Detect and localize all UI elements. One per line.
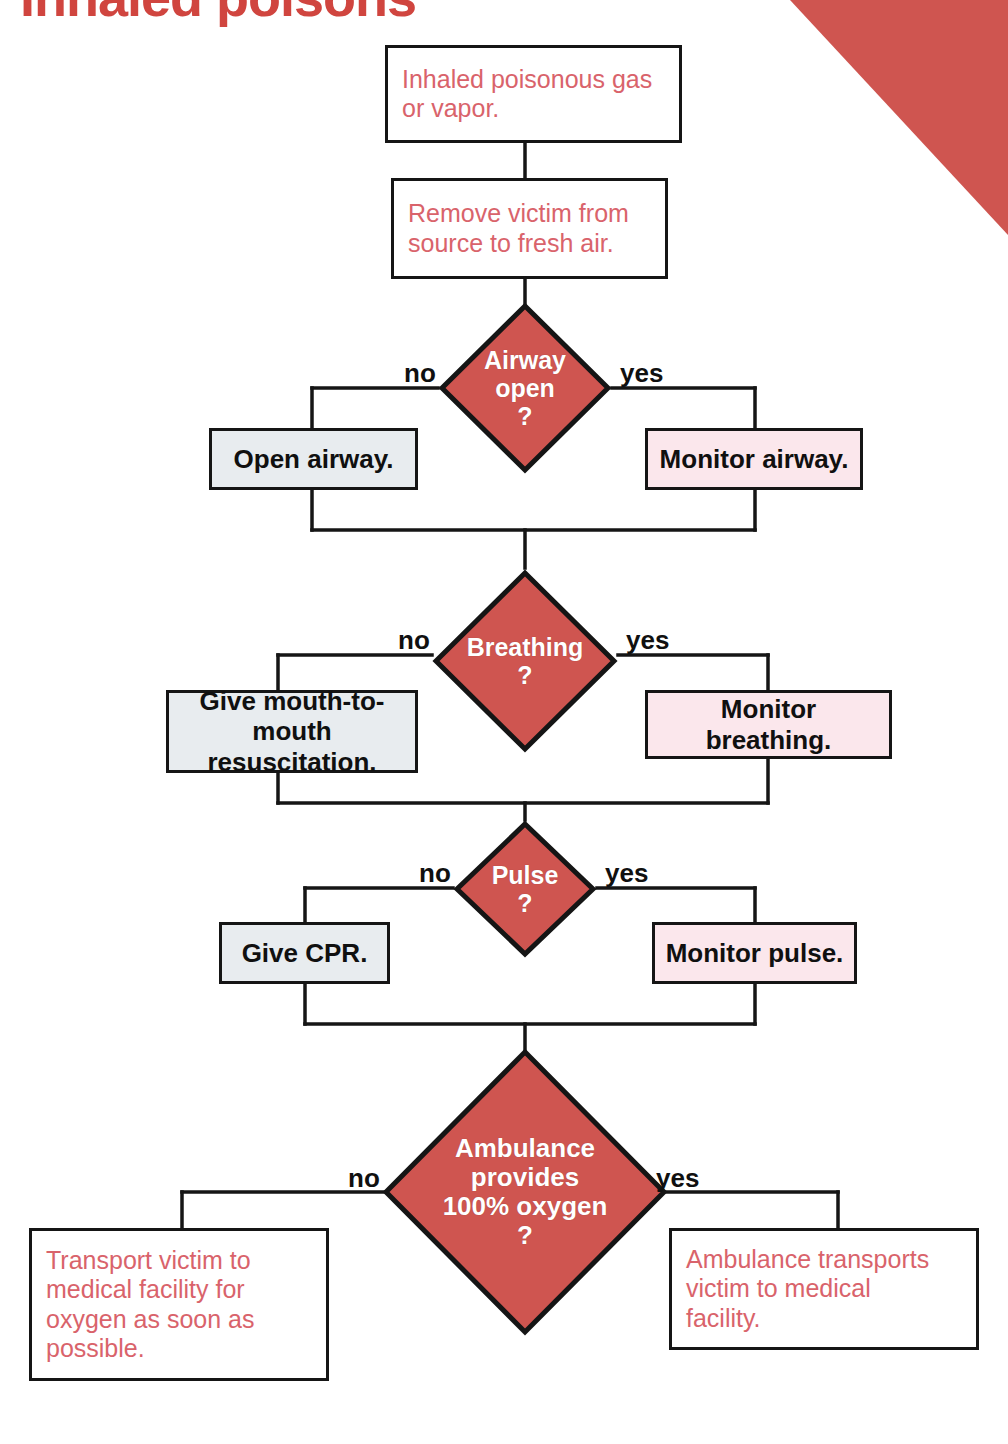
node-remove-victim-label: Remove victim from source to fresh air. — [408, 199, 651, 258]
node-open-airway-label: Open airway. — [222, 444, 405, 475]
edge-label-airway-no: no — [404, 358, 436, 389]
node-transport-victim: Transport victim to medical facility for… — [29, 1228, 329, 1381]
node-transport-victim-label: Transport victim to medical facility for… — [46, 1246, 312, 1364]
node-ambulance-transports: Ambulance transports victim to medical f… — [669, 1228, 979, 1350]
node-monitor-airway: Monitor airway. — [645, 428, 863, 490]
node-monitor-pulse-label: Monitor pulse. — [665, 938, 844, 969]
node-monitor-breathing-label: Monitor breathing. — [658, 694, 879, 755]
node-open-airway: Open airway. — [209, 428, 418, 490]
node-give-cpr: Give CPR. — [219, 922, 390, 984]
node-give-cpr-label: Give CPR. — [232, 938, 377, 969]
node-airway-open-decision: Airway open ? — [438, 302, 612, 474]
node-ambulance-oxygen-decision: Ambulance provides 100% oxygen ? — [382, 1048, 668, 1336]
node-give-mouth-to-mouth-label: Give mouth-to- mouth resuscitation. — [179, 686, 405, 778]
node-remove-victim: Remove victim from source to fresh air. — [391, 178, 668, 279]
edge-label-breathing-yes: yes — [626, 625, 669, 656]
edge-label-pulse-no: no — [419, 858, 451, 889]
node-inhaled-poison: Inhaled poisonous gas or vapor. — [385, 45, 682, 143]
node-monitor-breathing: Monitor breathing. — [645, 690, 892, 759]
edge-label-ambulance-no: no — [348, 1163, 380, 1194]
node-ambulance-transports-label: Ambulance transports victim to medical f… — [686, 1245, 962, 1334]
node-pulse-decision: Pulse ? — [453, 820, 597, 958]
node-monitor-pulse: Monitor pulse. — [652, 922, 857, 984]
edge-label-breathing-no: no — [398, 625, 430, 656]
edge-label-ambulance-yes: yes — [656, 1163, 699, 1194]
edge-label-airway-yes: yes — [620, 358, 663, 389]
node-inhaled-poison-label: Inhaled poisonous gas or vapor. — [402, 65, 665, 124]
node-breathing-decision: Breathing ? — [432, 569, 618, 753]
node-give-mouth-to-mouth: Give mouth-to- mouth resuscitation. — [166, 690, 418, 773]
flowchart-page: Inhaled poisons — [0, 0, 1008, 1444]
edge-label-pulse-yes: yes — [605, 858, 648, 889]
node-monitor-airway-label: Monitor airway. — [658, 444, 850, 475]
